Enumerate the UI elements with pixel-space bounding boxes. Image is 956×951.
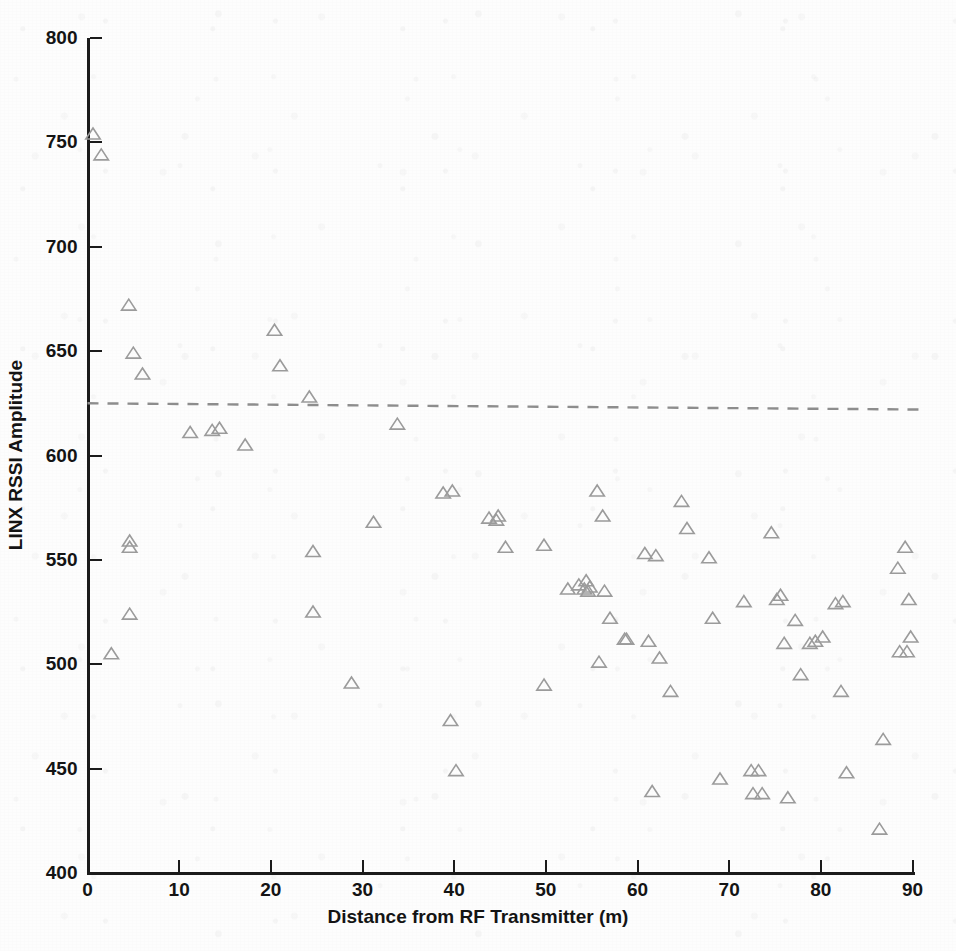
data-point-marker [892,646,906,657]
data-point-marker [645,786,659,797]
data-point-marker [898,541,912,552]
data-point-marker [390,418,404,429]
data-point-marker [135,368,149,379]
data-point-marker [751,765,765,776]
data-point-marker [238,439,252,450]
data-point-marker [872,823,886,834]
data-point-marker [94,149,108,160]
data-point-marker [793,669,807,680]
data-point-marker [891,562,905,573]
data-point-marker [537,539,551,550]
data-point-marker [595,510,609,521]
figure-canvas: 4004505005506006507007508000102030405060… [0,0,956,951]
data-point-marker [344,677,358,688]
data-point-marker [267,324,281,335]
data-point-marker [652,652,666,663]
threshold-dashed-line [88,403,927,409]
data-point-marker [781,792,795,803]
data-point-marker [122,299,136,310]
data-point-marker [903,631,917,642]
data-point-marker [597,585,611,596]
data-point-marker [788,614,802,625]
data-point-marker [839,767,853,778]
data-point-marker [592,656,606,667]
data-point-marker [306,545,320,556]
data-point-marker [680,523,694,534]
data-point-marker [764,527,778,538]
data-point-marker [537,679,551,690]
data-point-marker [590,485,604,496]
data-point-marker [449,765,463,776]
data-point-marker [713,773,727,784]
data-point-marker [834,685,848,696]
data-point-marker [641,635,655,646]
data-point-marker [86,128,100,139]
scatter-plot-svg [0,0,956,951]
data-point-marker [815,631,829,642]
data-point-marker [705,612,719,623]
data-point-marker [273,360,287,371]
data-point-marker [104,648,118,659]
data-point-marker [183,426,197,437]
data-point-marker [122,608,136,619]
data-point-marker [126,347,140,358]
data-point-marker [702,552,716,563]
data-point-marker [306,606,320,617]
data-point-marker [498,541,512,552]
data-point-marker [443,715,457,726]
data-point-marker [663,685,677,696]
data-point-marker [674,495,688,506]
data-point-marker [777,637,791,648]
data-point-marker [876,733,890,744]
data-point-marker [302,391,316,402]
data-point-marker [603,612,617,623]
data-point-marker [902,593,916,604]
data-point-marker [737,596,751,607]
data-point-marker [900,646,914,657]
data-point-marker [744,765,758,776]
data-point-marker [638,548,652,559]
data-point-marker [366,516,380,527]
series-0-markers [86,128,918,834]
